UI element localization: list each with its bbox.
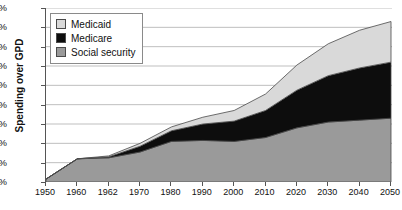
legend-item: Medicaid xyxy=(56,17,135,31)
legend-swatch-icon xyxy=(56,19,66,29)
x-tick-mark xyxy=(202,182,203,186)
x-tick-mark xyxy=(108,182,109,186)
y-tick-label: 12% xyxy=(0,60,7,71)
chart-legend: MedicaidMedicareSocial security xyxy=(50,13,143,64)
x-tick-mark xyxy=(45,182,46,186)
y-tick-label: 16% xyxy=(0,21,7,32)
x-tick-mark xyxy=(170,182,171,186)
legend-label: Social security xyxy=(71,47,135,58)
y-tick-label: 14% xyxy=(0,41,7,52)
x-tick-mark xyxy=(139,182,140,186)
y-tick-label: 6% xyxy=(0,118,7,129)
y-tick-label: 10% xyxy=(0,79,7,90)
legend-label: Medicare xyxy=(71,33,112,44)
y-tick-label: 8% xyxy=(0,99,7,110)
x-tick-mark xyxy=(76,182,77,186)
x-tick-label: 2050 xyxy=(370,187,402,197)
legend-item: Medicare xyxy=(56,31,135,45)
x-tick-mark xyxy=(265,182,266,186)
y-axis-title: Spending over GPD xyxy=(14,16,25,156)
y-tick-label: 0% xyxy=(0,176,7,187)
y-tick-label: 4% xyxy=(0,137,7,148)
legend-swatch-icon xyxy=(56,47,66,57)
legend-swatch-icon xyxy=(56,33,66,43)
x-tick-mark xyxy=(359,182,360,186)
legend-item: Social security xyxy=(56,45,135,59)
spending-over-gdp-chart: Spending over GPD 0%2%4%6%8%10%12%14%16%… xyxy=(0,0,402,210)
legend-label: Medicaid xyxy=(71,19,111,30)
y-tick-label: 18% xyxy=(0,2,7,13)
x-tick-mark xyxy=(327,182,328,186)
x-tick-mark xyxy=(233,182,234,186)
x-tick-mark xyxy=(296,182,297,186)
x-tick-mark xyxy=(390,182,391,186)
y-tick-label: 2% xyxy=(0,157,7,168)
